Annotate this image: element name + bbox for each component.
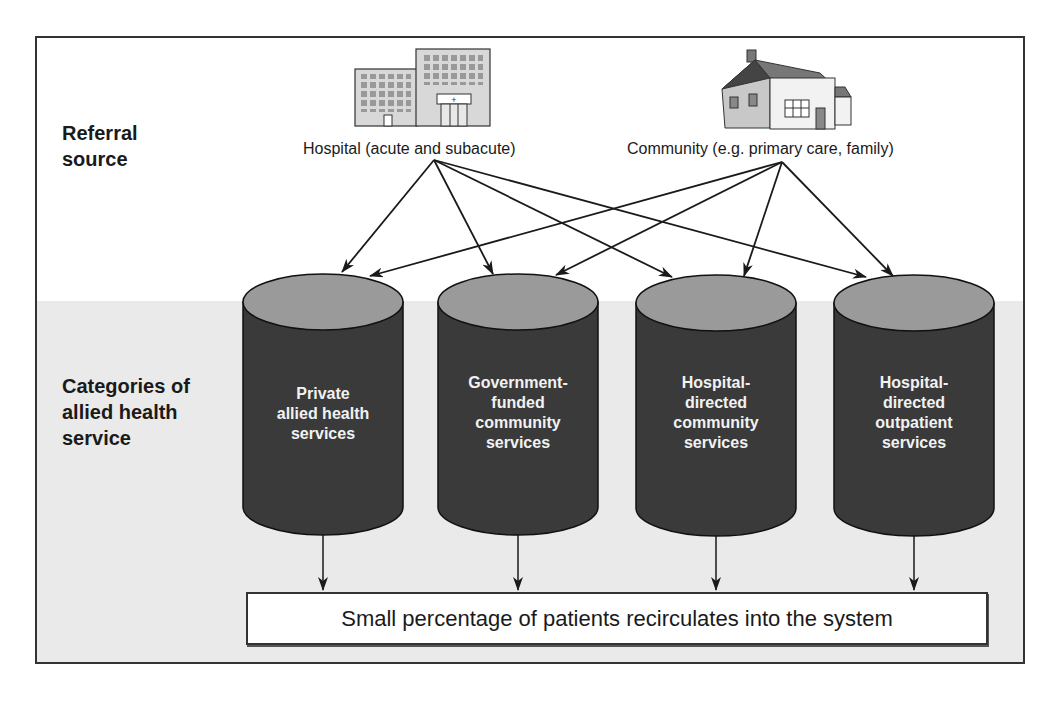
hospital-referral-arrows [342, 160, 866, 277]
service-label-hospital-outpatient: Hospital- directed outpatient services [834, 373, 994, 453]
service-label-government: Government- funded community services [438, 373, 598, 453]
recirculation-box: Small percentage of patients recirculate… [246, 592, 988, 645]
hospital-building-icon: + [355, 49, 490, 126]
house-icon [722, 50, 851, 129]
categories-label: Categories of allied health service [62, 373, 190, 451]
hospital-source-label: Hospital (acute and subacute) [303, 140, 516, 158]
community-referral-arrows [370, 162, 893, 276]
referral-source-label: Referral source [62, 120, 138, 172]
recirculation-label: Small percentage of patients recirculate… [341, 606, 893, 632]
service-label-private: Private allied health services [243, 384, 403, 444]
community-source-label: Community (e.g. primary care, family) [627, 140, 894, 158]
outflow-arrows [323, 535, 914, 590]
service-label-hospital-community: Hospital- directed community services [636, 373, 796, 453]
